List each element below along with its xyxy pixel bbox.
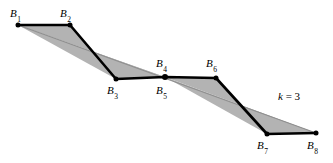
vertex-label-b1: B1 — [10, 8, 21, 19]
k-value: 3 — [295, 90, 301, 102]
vertex-dot-b8 — [314, 131, 319, 136]
vertex-label-b2: B2 — [60, 8, 71, 19]
zigzag-band-svg — [0, 0, 333, 163]
vertex-label-b5: B5 — [156, 85, 167, 96]
vertex-dot-b7 — [265, 132, 270, 137]
vertex-label-b8: B8 — [307, 140, 318, 151]
vertex-dot-b6 — [214, 76, 219, 81]
vertex-dot-b4-b5 — [162, 74, 168, 80]
diagram-canvas: B1 B2 B3 B4 B5 B6 B7 B8 k = 3 — [0, 0, 333, 163]
k-equals: = — [283, 90, 295, 102]
vertex-label-b6: B6 — [206, 58, 217, 69]
vertex-dot-b3 — [114, 77, 119, 82]
vertex-label-b4: B4 — [156, 58, 167, 69]
k-annotation: k = 3 — [278, 91, 300, 102]
vertex-label-b7: B7 — [257, 140, 268, 151]
vertex-label-b3: B3 — [107, 85, 118, 96]
